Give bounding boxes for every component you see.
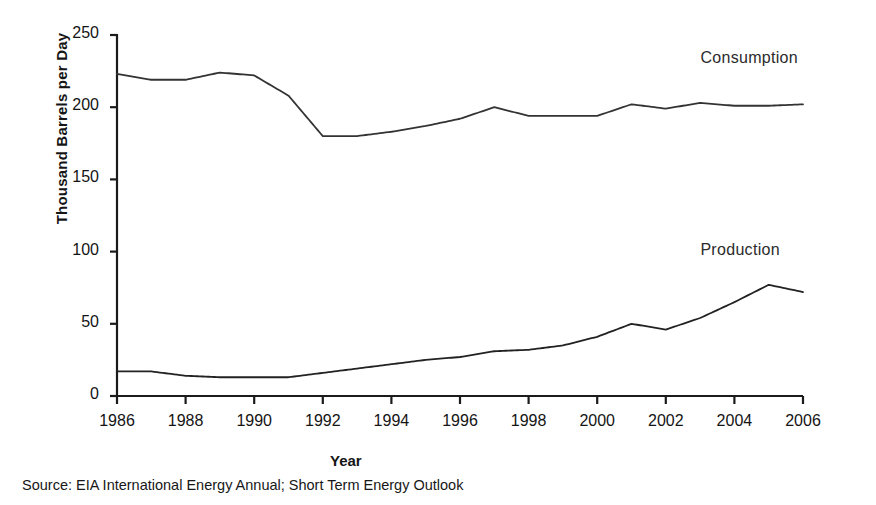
series-line-consumption	[117, 73, 803, 137]
x-axis-tick-label: 1988	[151, 412, 221, 430]
series-line-production	[117, 285, 803, 377]
x-axis-tick-label: 2006	[768, 412, 838, 430]
y-axis-tick-label: 50	[39, 313, 99, 331]
y-axis-tick-label: 150	[39, 168, 99, 186]
x-axis-tick-label: 1994	[356, 412, 426, 430]
chart-figure: Thousand Barrels per Day Year Source: EI…	[0, 0, 876, 505]
x-axis-tick-label: 2000	[562, 412, 632, 430]
x-axis-tick-label: 1990	[219, 412, 289, 430]
y-axis-tick-label: 250	[39, 24, 99, 42]
x-axis-tick-label: 2002	[631, 412, 701, 430]
y-axis-tick-label: 200	[39, 96, 99, 114]
y-axis-tick-label: 0	[39, 385, 99, 403]
series-label-consumption: Consumption	[700, 49, 798, 67]
x-axis-tick-label: 1992	[288, 412, 358, 430]
y-axis-tick-label: 100	[39, 241, 99, 259]
x-axis-tick-label: 2004	[699, 412, 769, 430]
x-axis-tick-label: 1996	[425, 412, 495, 430]
x-axis-title: Year	[330, 452, 362, 469]
source-note: Source: EIA International Energy Annual;…	[22, 477, 463, 493]
x-axis-tick-label: 1986	[82, 412, 152, 430]
x-axis-tick-label: 1998	[494, 412, 564, 430]
series-label-production: Production	[700, 241, 780, 259]
